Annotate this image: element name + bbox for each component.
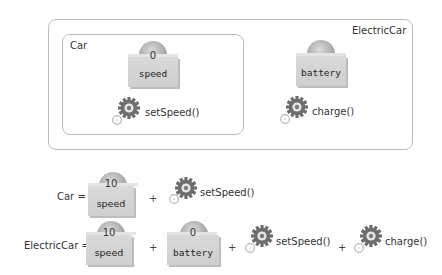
- speed-label: speed: [86, 247, 132, 258]
- car-class-label: Car: [70, 40, 87, 51]
- speed-label: speed: [128, 68, 178, 79]
- car-eq-speed-field: 10 speed: [88, 172, 138, 216]
- speed-value: 10: [88, 178, 134, 189]
- setspeed-method: [110, 96, 140, 122]
- gear-icon: [352, 224, 384, 254]
- gear-icon: [278, 95, 310, 125]
- electriccar-class-label: ElectricCar: [352, 25, 406, 36]
- setspeed-method-label: setSpeed(): [276, 236, 330, 247]
- plus-operator: +: [149, 242, 157, 253]
- electriccar-equation-lhs: ElectricCar =: [24, 240, 90, 251]
- charge-method-label: charge(): [312, 106, 354, 117]
- setspeed-method-label: setSpeed(): [145, 107, 199, 118]
- battery-label: battery: [296, 67, 346, 78]
- charge-method-label: charge(): [385, 236, 427, 247]
- plus-operator: +: [149, 193, 157, 204]
- battery-field: battery: [296, 40, 346, 86]
- electriccar-eq-battery-field: 0 battery: [167, 221, 217, 265]
- speed-value: 10: [86, 227, 132, 238]
- gear-icon: [243, 224, 275, 254]
- speed-label: speed: [88, 198, 134, 209]
- car-eq-setspeed-method: [167, 176, 197, 202]
- battery-value: 0: [167, 227, 219, 238]
- speed-field: 0 speed: [128, 41, 178, 87]
- electriccar-eq-charge-method: [352, 224, 382, 250]
- gear-icon: [110, 96, 142, 126]
- plus-operator: +: [228, 242, 236, 253]
- battery-label: battery: [167, 247, 219, 258]
- gear-icon: [167, 176, 199, 206]
- speed-value: 0: [128, 50, 178, 61]
- electriccar-eq-setspeed-method: [243, 224, 273, 250]
- car-equation-lhs: Car =: [57, 191, 86, 202]
- charge-method: [278, 95, 308, 121]
- plus-operator: +: [338, 242, 346, 253]
- electriccar-eq-speed-field: 10 speed: [86, 221, 136, 265]
- setspeed-method-label: setSpeed(): [200, 187, 254, 198]
